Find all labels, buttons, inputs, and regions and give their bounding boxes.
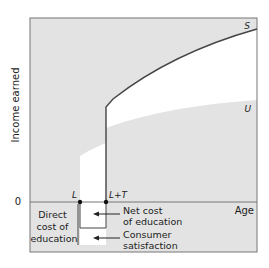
y-axis-label: Income earned (10, 67, 21, 142)
point-L-plus-T (104, 200, 108, 204)
S-label: S (244, 21, 250, 31)
LT-label: L+T (109, 190, 129, 200)
U-label: U (244, 104, 251, 114)
consumer-satisfaction-label: Consumer satisfaction (123, 229, 178, 251)
point-L (78, 200, 82, 204)
below-axis-white (80, 202, 106, 245)
x-axis-label: Age (235, 205, 254, 216)
zero-label: 0 (15, 196, 21, 207)
chart: 0 Income earned Age L L+T S U Direct cos… (0, 0, 269, 268)
L-label: L (72, 190, 77, 200)
